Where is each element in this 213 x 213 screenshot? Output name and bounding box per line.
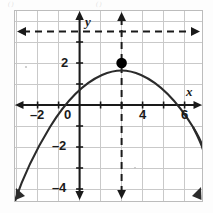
page-speck	[25, 66, 27, 68]
graph-svg	[14, 10, 203, 202]
y-axis-label: y	[85, 14, 91, 30]
x-tick-label-neg2: –2	[30, 107, 44, 122]
graph-figure: ( ) ( )	[0, 0, 213, 213]
x-tick-label-6: 6	[181, 107, 188, 122]
scan-artifacts: ( ) ( )	[0, 0, 213, 10]
y-tick-label-neg2: –2	[52, 138, 66, 153]
origin-label: 0	[64, 107, 71, 122]
x-tick-label-4: 4	[139, 107, 146, 122]
x-axis-label: x	[186, 84, 193, 100]
scan-artifact-text: ( )	[96, 1, 102, 7]
scan-artifact-text: ( )	[8, 1, 14, 7]
y-tick-label-neg4: –4	[52, 180, 66, 195]
marked-point[interactable]	[116, 58, 127, 69]
page-speck	[134, 167, 136, 169]
y-tick-label-2: 2	[61, 55, 68, 70]
coordinate-plane: y x 0 –2 4 6 2 –2 –4	[14, 10, 203, 202]
